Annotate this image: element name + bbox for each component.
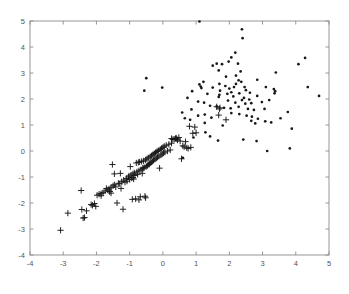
x-tick-label: -4	[27, 259, 34, 268]
data-point-dot	[238, 92, 241, 95]
data-point-dot	[237, 105, 240, 108]
data-point-dot	[217, 96, 220, 99]
data-point-dot	[191, 90, 194, 93]
data-point-dot	[215, 62, 218, 65]
data-point-dot	[306, 86, 309, 89]
data-point-dot	[217, 139, 220, 142]
figure-container: -4-3-2-1012345 -4-3-2-1012345	[0, 0, 349, 294]
data-point-dot	[210, 116, 213, 119]
data-point-dot	[243, 97, 246, 100]
data-point-dot	[286, 111, 289, 114]
data-point-dot	[241, 99, 244, 102]
data-point-dot	[241, 28, 244, 31]
data-point-dot	[227, 99, 230, 102]
data-point-dot	[203, 122, 206, 125]
x-tick-label: -2	[93, 259, 100, 268]
data-point-dot	[318, 95, 321, 98]
data-point-dot	[223, 106, 226, 109]
data-point-dot	[304, 57, 307, 60]
data-point-dot	[235, 83, 238, 86]
data-point-dot	[143, 89, 146, 92]
data-point-dot	[203, 101, 206, 104]
x-tick-label: 3	[260, 259, 264, 268]
y-tick-label: -3	[18, 225, 25, 234]
data-point-dot	[186, 97, 189, 100]
data-point-dot	[204, 131, 207, 134]
data-point-dot	[228, 87, 231, 90]
data-point-dot	[234, 51, 237, 54]
data-point-dot	[189, 118, 192, 121]
x-tick-label: -3	[60, 259, 67, 268]
data-point-dot	[145, 77, 148, 80]
data-point-dot	[248, 98, 251, 101]
data-point-dot	[235, 74, 238, 77]
scatter-plot: -4-3-2-1012345 -4-3-2-1012345	[0, 0, 349, 294]
data-point-dot	[254, 122, 257, 125]
x-tick-label: 4	[294, 259, 298, 268]
data-point-dot	[245, 114, 248, 117]
data-point-dot	[237, 62, 240, 65]
data-point-dot	[218, 83, 221, 86]
data-point-dot	[232, 95, 235, 98]
data-point-dot	[224, 85, 227, 88]
data-point-dot	[239, 70, 242, 73]
y-tick-label: 2	[21, 95, 25, 104]
data-point-dot	[221, 124, 224, 127]
data-point-dot	[198, 20, 201, 23]
x-tick-label: 0	[161, 259, 165, 268]
data-point-dot	[211, 64, 214, 67]
x-tick-label: 1	[194, 259, 198, 268]
data-point-dot	[297, 63, 300, 66]
data-point-dot	[206, 92, 209, 95]
y-tick-label: 0	[21, 147, 25, 156]
data-point-dot	[227, 60, 230, 63]
data-point-dot	[202, 80, 205, 83]
data-point-dot	[250, 119, 253, 122]
data-point-dot	[243, 86, 246, 89]
data-point-dot	[250, 102, 253, 105]
data-point-dot	[203, 113, 206, 116]
data-point-dot	[266, 150, 269, 153]
y-tick-label: 1	[21, 121, 25, 130]
data-point-dot	[161, 86, 164, 89]
data-point-dot	[288, 147, 291, 150]
data-point-dot	[200, 87, 203, 90]
data-point-dot	[263, 108, 266, 111]
data-point-dot	[215, 105, 218, 108]
data-point-dot	[261, 101, 264, 104]
data-point-dot	[273, 92, 276, 95]
data-point-dot	[251, 115, 254, 118]
data-point-dot	[233, 86, 236, 89]
data-point-dot	[257, 117, 260, 120]
y-tick-label: -2	[18, 199, 25, 208]
data-point-dot	[226, 92, 229, 95]
y-tick-label: 4	[21, 43, 25, 52]
y-tick-label: -1	[18, 173, 25, 182]
data-point-dot	[247, 108, 250, 111]
y-tick-label: -4	[18, 251, 25, 260]
data-point-dot	[229, 107, 232, 110]
data-point-dot	[209, 104, 212, 107]
data-point-dot	[249, 91, 252, 94]
data-point-dot	[230, 112, 233, 115]
data-point-dot	[268, 99, 271, 102]
data-point-dot	[230, 91, 233, 94]
data-point-dot	[190, 108, 193, 111]
data-point-dot	[181, 111, 184, 114]
data-point-dot	[256, 95, 259, 98]
data-point-dot	[219, 89, 222, 92]
data-point-dot	[274, 71, 277, 74]
data-point-dot	[253, 109, 256, 112]
data-point-dot	[217, 69, 220, 72]
data-point-dot	[211, 86, 214, 89]
data-point-dot	[241, 37, 244, 40]
x-tick-label: 2	[227, 259, 231, 268]
data-point-dot	[256, 78, 259, 81]
plot-background	[0, 0, 349, 294]
data-point-dot	[197, 100, 200, 103]
data-point-dot	[242, 138, 245, 141]
data-point-dot	[265, 86, 268, 89]
data-point-dot	[245, 89, 248, 92]
x-tick-label: 5	[327, 259, 331, 268]
data-point-dot	[237, 79, 240, 82]
